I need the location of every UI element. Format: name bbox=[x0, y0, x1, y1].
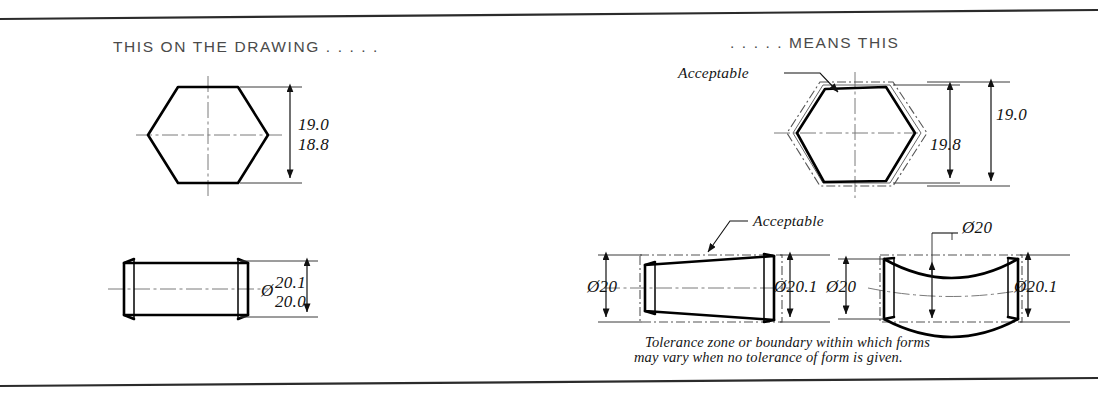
hex-dimension-lower-value: 18.8 bbox=[298, 135, 329, 154]
rhex-outer-dimension-value: 19.0 bbox=[996, 105, 1027, 124]
taper-left-dimension-value: Ø20 bbox=[586, 277, 617, 296]
cyl-dimension-lower-value: 20.0 bbox=[275, 292, 306, 311]
caption-line-2: may vary when no tolerance of form is gi… bbox=[634, 349, 903, 365]
rhex-inner-dimension-value: 19.8 bbox=[930, 135, 961, 154]
diameter-symbol-icon: Ø bbox=[260, 281, 274, 300]
waisted-left-dimension-value: Ø20 bbox=[825, 277, 856, 296]
heading-this-on-the-drawing: THIS ON THE DRAWING . . . . . bbox=[113, 38, 379, 55]
caption-line-1: Tolerance zone or boundary within which … bbox=[645, 334, 930, 350]
technical-drawing-sheet: THIS ON THE DRAWING . . . . . . . . . . … bbox=[0, 0, 1098, 405]
cyl-dimension-upper-value: 20.1 bbox=[275, 273, 306, 292]
taper-right-dimension-value: Ø20.1 bbox=[773, 277, 818, 296]
label-acceptable-taper: Acceptable bbox=[752, 212, 824, 229]
waisted-top-dimension-value: Ø20 bbox=[961, 218, 992, 237]
hex-dimension-upper-value: 19.0 bbox=[298, 115, 329, 134]
heading-means-this: . . . . . MEANS THIS bbox=[730, 34, 900, 51]
sheet-background bbox=[0, 0, 1098, 405]
label-acceptable-hexagon: Acceptable bbox=[677, 64, 749, 81]
waisted-right-dimension-value: Ø20.1 bbox=[1013, 277, 1058, 296]
